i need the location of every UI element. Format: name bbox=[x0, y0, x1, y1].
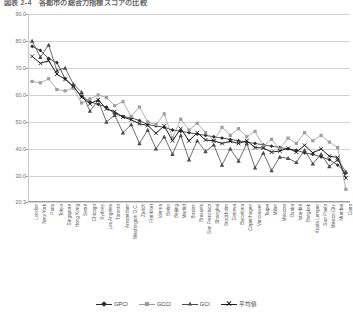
data-point-diamond bbox=[55, 61, 59, 65]
x-tick-label: Bangkok bbox=[306, 204, 311, 222]
x-tick-label: Moscow bbox=[282, 204, 287, 221]
data-point-square bbox=[105, 96, 108, 99]
data-point-cross bbox=[303, 143, 307, 147]
x-tick-label: Hong Kong bbox=[75, 204, 80, 227]
data-point-diamond bbox=[220, 136, 224, 140]
data-point-square bbox=[303, 131, 306, 134]
x-tick-label: Istanbul bbox=[298, 204, 303, 220]
legend-item-GCCI[interactable]: GCCI bbox=[139, 301, 171, 308]
y-tick-label: 50.0 bbox=[2, 119, 26, 125]
data-point-cross bbox=[154, 131, 158, 135]
x-tick-label: Paris bbox=[50, 204, 55, 215]
x-tick-label: Kuala Lumpur bbox=[315, 204, 320, 233]
data-point-triangle bbox=[187, 157, 191, 161]
data-point-square bbox=[253, 130, 256, 133]
data-point-cross bbox=[30, 54, 34, 58]
x-tick-label: Chicago bbox=[92, 204, 97, 221]
y-tick-mark bbox=[26, 202, 28, 203]
legend-item-平均値[interactable]: 平均値 bbox=[221, 300, 257, 308]
x-axis-labels: LondonNew YorkParisTokyoSingaporeHong Ko… bbox=[28, 204, 350, 274]
data-point-square bbox=[31, 80, 34, 83]
legend-swatch-diamond-icon bbox=[96, 301, 112, 308]
data-point-triangle bbox=[220, 163, 224, 167]
chart-container: 図表 2-4 各都市の総合力指標スコアの比較 90.080.070.060.05… bbox=[0, 0, 353, 324]
y-tick-label: 40.0 bbox=[2, 146, 26, 152]
data-point-triangle bbox=[278, 155, 282, 159]
legend-label: GPCI bbox=[114, 301, 128, 307]
x-tick-label: Barcelona bbox=[240, 204, 245, 225]
y-tick-label: 80.0 bbox=[2, 38, 26, 44]
data-point-square bbox=[55, 88, 58, 91]
data-point-square bbox=[179, 118, 182, 121]
x-tick-label: Singapore bbox=[67, 204, 72, 225]
data-point-square bbox=[80, 101, 83, 104]
y-tick-label: 70.0 bbox=[2, 65, 26, 71]
data-point-square bbox=[220, 126, 223, 129]
x-tick-label: Cairo bbox=[348, 204, 353, 215]
legend-label: GCCI bbox=[157, 301, 171, 307]
x-tick-label: Beijing bbox=[174, 204, 179, 218]
data-point-square bbox=[47, 77, 50, 80]
y-tick-label: 30.0 bbox=[2, 173, 26, 179]
data-point-triangle bbox=[137, 141, 141, 145]
chart-title: 図表 2-4 各都市の総合力指標スコアの比較 bbox=[4, 0, 147, 7]
chart-legend: GPCIGCCIGCI平均値 bbox=[0, 300, 353, 308]
data-point-triangle bbox=[179, 133, 183, 137]
data-point-diamond bbox=[171, 128, 175, 132]
y-tick-label: 90.0 bbox=[2, 11, 26, 17]
legend-item-GCI[interactable]: GCI bbox=[182, 301, 210, 308]
x-tick-label: New York bbox=[42, 204, 47, 224]
data-point-square bbox=[196, 122, 199, 125]
data-point-triangle bbox=[146, 128, 150, 132]
data-point-square bbox=[344, 188, 347, 191]
data-point-square bbox=[328, 141, 331, 144]
data-point-square bbox=[320, 134, 323, 137]
y-tick-label: 20.3 bbox=[2, 199, 26, 205]
data-point-square bbox=[286, 136, 289, 139]
data-point-square bbox=[237, 127, 240, 130]
data-point-square bbox=[39, 81, 42, 84]
data-point-triangle bbox=[261, 151, 265, 155]
data-point-square bbox=[270, 138, 273, 141]
x-tick-label: London bbox=[34, 204, 39, 220]
x-tick-label: Sao Paulo bbox=[323, 204, 328, 226]
x-tick-label: San Francisco bbox=[207, 204, 212, 234]
data-point-square bbox=[311, 139, 314, 142]
gridline bbox=[28, 202, 350, 203]
x-tick-label: Stockholm bbox=[224, 204, 229, 226]
data-point-triangle bbox=[129, 122, 133, 126]
data-point-square bbox=[204, 131, 207, 134]
data-point-triangle bbox=[212, 143, 216, 147]
legend-item-GPCI[interactable]: GPCI bbox=[96, 301, 128, 308]
x-tick-label: Shanghai bbox=[215, 204, 220, 224]
plot-area: 90.080.070.060.050.040.030.020.3 bbox=[28, 14, 350, 202]
legend-swatch-cross-icon bbox=[221, 301, 237, 308]
data-point-triangle bbox=[162, 135, 166, 139]
data-point-triangle bbox=[302, 148, 306, 152]
x-tick-label: Brussels bbox=[199, 204, 204, 222]
data-point-square bbox=[64, 89, 67, 92]
x-tick-label: Vienna bbox=[158, 204, 163, 219]
x-tick-label: Copenhagen bbox=[248, 204, 253, 231]
data-point-square bbox=[187, 128, 190, 131]
x-tick-label: Zurich bbox=[141, 204, 146, 217]
data-point-diamond bbox=[270, 144, 274, 148]
data-point-square bbox=[245, 135, 248, 138]
data-point-triangle bbox=[269, 168, 273, 172]
data-point-square bbox=[138, 105, 141, 108]
data-point-square bbox=[154, 123, 157, 126]
data-point-triangle bbox=[319, 152, 323, 156]
data-point-triangle bbox=[253, 166, 257, 170]
legend-label: GCI bbox=[200, 301, 210, 307]
data-point-triangle bbox=[63, 66, 67, 70]
series-GPCI bbox=[30, 44, 348, 175]
x-tick-label: Berlin bbox=[166, 204, 171, 216]
legend-label: 平均値 bbox=[239, 300, 257, 308]
legend-swatch-square-icon bbox=[139, 301, 155, 308]
series-layer bbox=[28, 14, 350, 202]
x-tick-label: Vancouver bbox=[257, 204, 262, 226]
x-tick-label: Frankfurt bbox=[149, 204, 154, 223]
data-point-triangle bbox=[46, 43, 50, 47]
series-line bbox=[32, 41, 346, 172]
x-tick-label: Osaka bbox=[290, 204, 295, 218]
